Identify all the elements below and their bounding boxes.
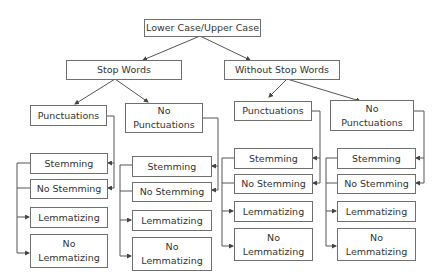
root-label: Lower Case/Upper Case	[146, 21, 259, 35]
node-label: Stop Words	[97, 63, 151, 77]
stop-words-node: Stop Words	[66, 60, 182, 80]
col2-no-stemming: No Stemming	[132, 182, 212, 202]
col4-lemmatizing: Lemmatizing	[337, 201, 416, 222]
node-label: No Lemmatizing	[346, 231, 407, 259]
node-label: No Stemming	[241, 177, 306, 191]
without-stop-words-node: Without Stop Words	[224, 60, 340, 80]
col2-stemming: Stemming	[132, 156, 212, 177]
no-punctuations-node-1: No Punctuations	[125, 103, 203, 133]
node-label: No Punctuations	[341, 102, 403, 130]
node-label: Lemmatizing	[346, 205, 407, 219]
node-label: Stemming	[352, 152, 401, 166]
no-punctuations-node-2: No Punctuations	[330, 100, 414, 131]
col1-no-stemming: No Stemming	[30, 179, 108, 199]
col4-stemming: Stemming	[337, 148, 416, 169]
node-label: No Stemming	[140, 185, 205, 199]
col3-stemming: Stemming	[234, 148, 313, 169]
node-label: Punctuations	[38, 109, 100, 123]
node-label: Stemming	[45, 157, 94, 171]
punctuations-node-1: Punctuations	[30, 105, 107, 126]
col3-lemmatizing: Lemmatizing	[234, 201, 313, 222]
node-label: No Lemmatizing	[38, 237, 99, 265]
node-label: Without Stop Words	[235, 63, 329, 77]
col3-no-lemmatizing: No Lemmatizing	[234, 228, 313, 261]
node-label: Stemming	[148, 160, 197, 174]
node-label: No Lemmatizing	[243, 231, 304, 259]
col2-no-lemmatizing: No Lemmatizing	[132, 237, 212, 271]
node-label: No Stemming	[344, 177, 409, 191]
node-label: Punctuations	[242, 104, 304, 118]
node-label: Lemmatizing	[38, 211, 99, 225]
col2-lemmatizing: Lemmatizing	[132, 210, 212, 231]
punctuations-node-2: Punctuations	[234, 101, 312, 121]
root-node: Lower Case/Upper Case	[144, 19, 261, 37]
col4-no-stemming: No Stemming	[337, 174, 416, 194]
col3-no-stemming: No Stemming	[234, 174, 313, 194]
col1-lemmatizing: Lemmatizing	[30, 207, 108, 228]
node-label: Stemming	[249, 152, 298, 166]
node-label: No Lemmatizing	[141, 240, 202, 268]
node-label: No Stemming	[37, 182, 102, 196]
node-label: Lemmatizing	[141, 214, 202, 228]
col1-no-lemmatizing: No Lemmatizing	[30, 234, 108, 268]
node-label: Lemmatizing	[243, 205, 304, 219]
node-label: No Punctuations	[133, 104, 195, 132]
col4-no-lemmatizing: No Lemmatizing	[337, 228, 416, 261]
col1-stemming: Stemming	[30, 153, 108, 174]
